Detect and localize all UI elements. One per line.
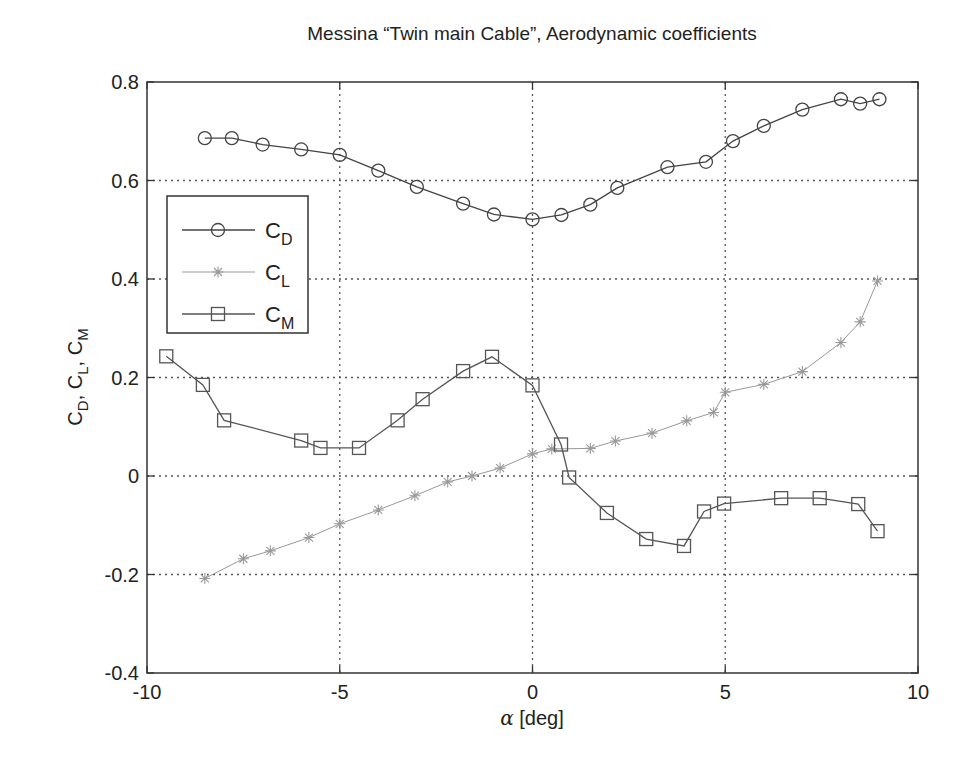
asterisk-marker [797, 366, 808, 377]
alpha-symbol: α [500, 706, 514, 730]
y-axis-label: CD, CL, CM [64, 328, 91, 425]
asterisk-marker [720, 387, 731, 398]
x-tick-label: 10 [907, 681, 929, 703]
x-tick-labels: -10-50510 [133, 681, 930, 703]
asterisk-marker [708, 407, 719, 418]
asterisk-marker [855, 316, 866, 327]
y-tick-label: 0 [128, 465, 139, 487]
chart-title: Messina “Twin main Cable”, Aerodynamic c… [307, 23, 757, 44]
asterisk-marker [758, 379, 769, 390]
y-tick-label: 0.6 [111, 170, 139, 192]
asterisk-marker [409, 490, 420, 501]
asterisk-marker [213, 267, 224, 278]
y-tick-labels: -0.4-0.200.20.40.60.8 [105, 71, 139, 684]
grid-lines [147, 82, 918, 673]
asterisk-marker [681, 415, 692, 426]
y-tick-label: 0.2 [111, 367, 139, 389]
asterisk-marker [265, 545, 276, 556]
legend: CDCLCM [167, 196, 308, 333]
asterisk-marker [610, 436, 621, 447]
y-axis-label-text: CD, CL, CM [64, 328, 91, 425]
asterisk-marker [527, 448, 538, 459]
asterisk-marker [303, 532, 314, 543]
y-tick-label: -0.2 [105, 564, 139, 586]
chart-canvas: Messina “Twin main Cable”, Aerodynamic c… [0, 0, 975, 776]
legend-box [167, 196, 308, 333]
x-tick-label: 5 [720, 681, 731, 703]
asterisk-marker [647, 428, 658, 439]
y-tick-label: -0.4 [105, 662, 139, 684]
asterisk-marker [872, 275, 883, 286]
data-series [160, 93, 886, 584]
asterisk-marker [495, 463, 506, 474]
asterisk-marker [373, 504, 384, 515]
x-axis-label: α [deg] [500, 706, 564, 730]
y-tick-label: 0.4 [111, 268, 139, 290]
asterisk-marker [238, 553, 249, 564]
x-tick-label: -5 [331, 681, 349, 703]
asterisk-marker [466, 471, 477, 482]
series-line [166, 356, 877, 546]
asterisk-marker [442, 476, 453, 487]
x-tick-label: 0 [527, 681, 538, 703]
asterisk-marker [334, 518, 345, 529]
asterisk-marker [546, 443, 557, 454]
y-tick-label: 0.8 [111, 71, 139, 93]
x-axis-unit: [deg] [514, 707, 564, 729]
asterisk-marker [585, 443, 596, 454]
asterisk-marker [835, 337, 846, 348]
asterisk-marker [199, 573, 210, 584]
x-tick-label: -10 [133, 681, 162, 703]
